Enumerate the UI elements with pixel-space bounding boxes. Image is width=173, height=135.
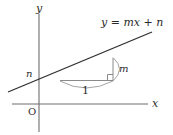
- figure-container: y x O n m 1 y = mx + n: [0, 0, 173, 135]
- y-intercept-label: n: [26, 68, 32, 79]
- origin-label: O: [28, 106, 36, 117]
- y-axis-label: y: [35, 2, 43, 15]
- rise-label: m: [119, 63, 128, 74]
- run-label: 1: [82, 84, 89, 97]
- x-axis-label: x: [152, 97, 159, 110]
- linear-function-diagram: y x O n m 1 y = mx + n: [0, 0, 173, 135]
- equation-label: y = mx + n: [100, 16, 163, 29]
- right-angle-icon: [108, 75, 114, 81]
- function-line: [8, 32, 152, 92]
